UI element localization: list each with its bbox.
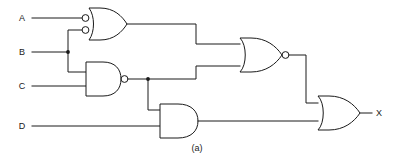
gate1-input-bubble-lower xyxy=(82,27,89,34)
logic-circuit-figure: A B C D X (a) xyxy=(0,0,394,158)
circuit-schematic: A B C D X (a) xyxy=(0,0,394,158)
gate2-output-bubble xyxy=(121,76,128,83)
input-label-a: A xyxy=(19,13,25,23)
gate4-body-and xyxy=(160,104,198,138)
gate3-body-nor xyxy=(240,38,282,72)
wire-b-branch-down xyxy=(68,52,86,72)
wire-n2-to-and xyxy=(148,79,160,110)
input-label-b: B xyxy=(19,47,25,57)
input-label-d: D xyxy=(19,121,26,131)
figure-caption: (a) xyxy=(192,143,203,153)
wire-gate1-out-to-nor xyxy=(127,24,240,44)
gate3-output-bubble xyxy=(282,52,289,59)
gate5-body-or xyxy=(318,96,360,130)
wire-n2-to-nor xyxy=(148,66,240,79)
wire-gate3-out-to-or xyxy=(289,55,318,103)
output-label-x: X xyxy=(376,108,382,118)
junction-dot-n2 xyxy=(146,77,150,81)
gate1-body-negative-or xyxy=(89,8,127,40)
gate1-input-bubble-upper xyxy=(82,15,89,22)
wire-b-branch-up xyxy=(68,30,82,52)
junction-dot-b xyxy=(66,50,70,54)
input-label-c: C xyxy=(19,81,26,91)
gate2-body-nand xyxy=(86,62,121,96)
